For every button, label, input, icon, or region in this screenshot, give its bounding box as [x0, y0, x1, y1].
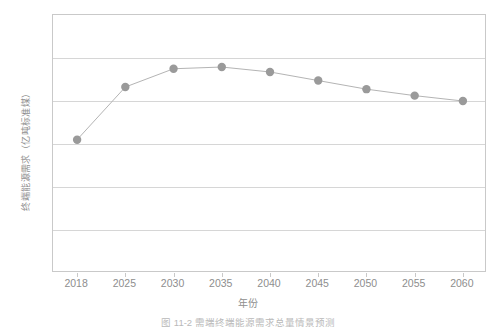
x-tick-label: 2045: [306, 277, 329, 289]
y-axis-title: 终端能源需求（亿吨标准煤）: [19, 55, 32, 245]
x-tick-label: 2050: [354, 277, 377, 289]
x-tick-label: 2018: [64, 277, 87, 289]
x-tick-label: 2035: [209, 277, 232, 289]
plot-area: [52, 14, 486, 272]
data-point-marker: [73, 136, 81, 144]
series-line: [77, 67, 463, 140]
data-point-marker: [169, 65, 177, 73]
x-tick-label: 2055: [402, 277, 425, 289]
data-point-marker: [459, 97, 467, 105]
data-series: [53, 15, 487, 273]
data-point-marker: [362, 85, 370, 93]
data-point-marker: [218, 63, 226, 71]
data-point-marker: [410, 91, 418, 99]
x-tick-label: 2025: [113, 277, 136, 289]
data-point-marker: [314, 76, 322, 84]
x-tick-label: 2030: [161, 277, 184, 289]
data-point-marker: [121, 83, 129, 91]
data-point-marker: [266, 68, 274, 76]
figure-caption: 图 11-2 需端终端能源需求总量情景预测: [0, 315, 496, 329]
x-axis-title: 年份: [0, 295, 496, 310]
x-tick-label: 2060: [450, 277, 473, 289]
x-tick-label: 2040: [257, 277, 280, 289]
